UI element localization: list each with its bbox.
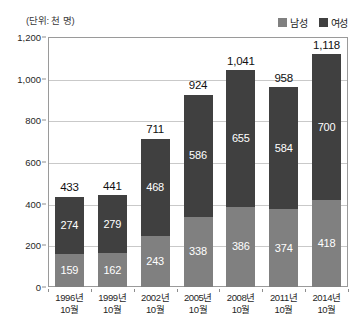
bar-segment-female[interactable]: 700 (312, 54, 341, 200)
bar-total-label: 1,118 (313, 40, 340, 52)
bar-stack[interactable]: 338586 (184, 95, 213, 288)
y-tick-mark (42, 37, 46, 38)
bar-segment-value-male: 338 (189, 246, 207, 257)
bar-segment-value-female: 468 (146, 182, 164, 193)
y-axis-tick-label: 600 (25, 157, 41, 168)
bar-segment-male[interactable]: 386 (226, 207, 255, 287)
bar-total-label: 711 (146, 124, 164, 136)
x-axis-tick-label: 2002년10월 (132, 292, 178, 316)
bar-segment-value-male: 386 (232, 241, 250, 252)
bar-segment-male[interactable]: 338 (184, 217, 213, 287)
y-tick-mark (42, 245, 46, 246)
bar-total-label: 441 (103, 181, 122, 193)
bar-total-label: 958 (274, 73, 293, 85)
bar-total-label: 1,041 (227, 56, 255, 68)
bar-group[interactable]: 374584958 (269, 37, 298, 287)
bar-segment-female[interactable]: 274 (55, 197, 84, 254)
bar-segment-male[interactable]: 162 (98, 253, 127, 287)
bar-segment-value-female: 586 (189, 150, 207, 161)
y-tick-mark (42, 162, 46, 163)
x-axis-tick-label: 2014년10월 (304, 292, 350, 316)
bar-group[interactable]: 4187001,118 (312, 37, 341, 287)
bar-segment-male[interactable]: 159 (55, 254, 84, 287)
bar-segment-value-male: 162 (103, 265, 121, 276)
bars-layer: 1592744331622794412434687113385869243866… (48, 37, 348, 287)
x-axis: 1996년10월1999년10월2002년10월2005년10월2008년10월… (48, 289, 348, 325)
y-axis: 02004006008001,0001,200 (0, 37, 46, 287)
legend-item-female: 여성 (319, 15, 348, 30)
bar-segment-value-female: 584 (275, 143, 293, 154)
square-swatch-icon (319, 18, 328, 27)
bar-segment-female[interactable]: 655 (226, 70, 255, 206)
stacked-bar-chart-figure: (단위: 천 명) 남성 여성 02004006008001,0001,200 … (0, 0, 357, 327)
x-axis-tick-label: 2005년10월 (175, 292, 221, 316)
chart-legend: 남성 여성 (278, 15, 348, 30)
bar-group[interactable]: 338586924 (184, 37, 213, 287)
x-axis-tick-label: 2008년10월 (218, 292, 264, 316)
y-axis-tick-label: 0 (36, 282, 41, 293)
bar-stack[interactable]: 374584 (269, 87, 298, 287)
bar-stack[interactable]: 162279 (98, 195, 127, 287)
bar-segment-female[interactable]: 586 (184, 95, 213, 217)
bar-segment-value-male: 243 (146, 256, 164, 267)
y-tick-mark (42, 203, 46, 204)
legend-label-male: 남성 (290, 15, 307, 30)
legend-label-female: 여성 (331, 15, 348, 30)
bar-total-label: 433 (60, 182, 79, 194)
bar-segment-value-female: 279 (103, 219, 121, 230)
y-axis-tick-label: 200 (25, 240, 41, 251)
bar-segment-value-male: 418 (318, 238, 336, 249)
y-axis-tick-label: 1,000 (17, 73, 41, 84)
bar-segment-female[interactable]: 584 (269, 87, 298, 209)
bar-segment-male[interactable]: 418 (312, 200, 341, 287)
bar-stack[interactable]: 386655 (226, 70, 255, 287)
x-axis-tick-label: 1999년10월 (89, 292, 135, 316)
bar-segment-value-female: 700 (318, 122, 336, 133)
y-axis-tick-label: 400 (25, 198, 41, 209)
bar-group[interactable]: 159274433 (55, 37, 84, 287)
unit-caption: (단위: 천 명) (26, 13, 74, 27)
bar-stack[interactable]: 243468 (141, 139, 170, 287)
x-axis-tick-label: 2011년10월 (261, 292, 307, 316)
bar-segment-value-male: 374 (275, 243, 293, 254)
bar-segment-female[interactable]: 279 (98, 195, 127, 253)
bar-group[interactable]: 243468711 (141, 37, 170, 287)
bar-group[interactable]: 162279441 (98, 37, 127, 287)
square-swatch-icon (278, 18, 287, 27)
y-tick-mark (42, 287, 46, 288)
bar-segment-female[interactable]: 468 (141, 139, 170, 237)
bar-segment-male[interactable]: 374 (269, 209, 298, 287)
y-axis-tick-label: 1,200 (17, 32, 41, 43)
legend-item-male: 남성 (278, 15, 307, 30)
x-tick-mark (48, 289, 49, 292)
y-tick-mark (42, 120, 46, 121)
bar-group[interactable]: 3866551,041 (226, 37, 255, 287)
y-tick-mark (42, 78, 46, 79)
bar-segment-value-female: 274 (61, 220, 79, 231)
bar-total-label: 924 (189, 80, 208, 92)
bar-stack[interactable]: 418700 (312, 54, 341, 287)
bar-segment-male[interactable]: 243 (141, 236, 170, 287)
y-axis-tick-label: 800 (25, 115, 41, 126)
x-axis-tick-label: 1996년10월 (46, 292, 92, 316)
bar-segment-value-female: 655 (232, 133, 250, 144)
bar-segment-value-male: 159 (61, 265, 79, 276)
bar-stack[interactable]: 159274 (55, 197, 84, 287)
